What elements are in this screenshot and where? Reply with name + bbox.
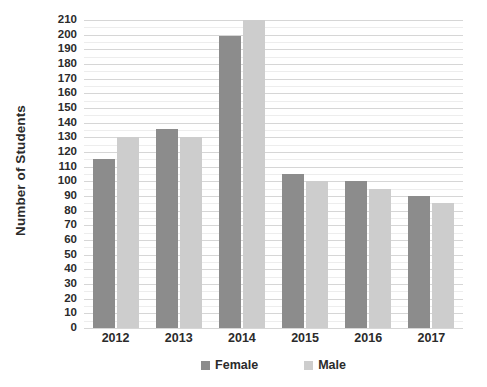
bars-layer	[84, 20, 463, 328]
gridline-major	[84, 328, 463, 329]
bar-male-2016	[369, 189, 391, 328]
y-axis-tick-labels: 0102030405060708090100110120130140150160…	[38, 0, 80, 340]
bar-male-2017	[432, 203, 454, 328]
y-axis-tick-210: 210	[37, 14, 77, 26]
y-axis-tick-130: 130	[37, 132, 77, 144]
legend-label-male: Male	[318, 358, 346, 372]
x-axis-tick-labels: 201220132014201520162017	[84, 331, 463, 353]
y-axis-tick-50: 50	[37, 249, 77, 261]
bar-male-2012	[117, 137, 139, 328]
y-axis-tick-150: 150	[37, 102, 77, 114]
y-axis-tick-70: 70	[37, 220, 77, 232]
bar-female-2012	[93, 159, 115, 328]
bar-male-2013	[180, 137, 202, 328]
bar-chart: Number of Students 010203040506070809010…	[0, 0, 487, 387]
bar-female-2014	[219, 36, 241, 328]
y-axis-tick-20: 20	[37, 293, 77, 305]
y-axis-tick-120: 120	[37, 146, 77, 158]
bar-female-2015	[282, 174, 304, 328]
legend-swatch-icon-male	[304, 361, 313, 370]
legend-entry-male[interactable]: Male	[304, 358, 346, 372]
y-axis-title: Number of Students	[0, 0, 40, 340]
bar-male-2015	[306, 181, 328, 328]
x-axis-tick-2013: 2013	[165, 331, 193, 345]
y-axis-tick-0: 0	[37, 322, 77, 334]
y-axis-tick-180: 180	[37, 58, 77, 70]
y-axis-tick-90: 90	[37, 190, 77, 202]
y-axis-tick-10: 10	[37, 308, 77, 320]
x-axis-tick-2014: 2014	[228, 331, 256, 345]
y-axis-tick-100: 100	[37, 176, 77, 188]
legend-entry-female[interactable]: Female	[201, 358, 258, 372]
bar-female-2016	[345, 181, 367, 328]
y-axis-tick-160: 160	[37, 88, 77, 100]
y-axis-tick-110: 110	[37, 161, 77, 173]
x-axis-tick-2012: 2012	[102, 331, 130, 345]
bar-female-2013	[156, 129, 178, 328]
y-axis-tick-140: 140	[37, 117, 77, 129]
x-axis-tick-2015: 2015	[291, 331, 319, 345]
y-axis-tick-30: 30	[37, 278, 77, 290]
chart-legend: FemaleMale	[84, 355, 463, 375]
y-axis-tick-170: 170	[37, 73, 77, 85]
bar-female-2017	[408, 196, 430, 328]
y-axis-tick-80: 80	[37, 205, 77, 217]
bar-male-2014	[243, 20, 265, 328]
y-axis-tick-60: 60	[37, 234, 77, 246]
y-axis-tick-200: 200	[37, 29, 77, 41]
y-axis-title-label: Number of Students	[13, 105, 28, 236]
x-axis-tick-2016: 2016	[354, 331, 382, 345]
plot-area	[84, 20, 463, 328]
y-axis-tick-40: 40	[37, 264, 77, 276]
legend-label-female: Female	[215, 358, 258, 372]
x-axis-tick-2017: 2017	[418, 331, 446, 345]
legend-swatch-icon-female	[201, 361, 210, 370]
y-axis-tick-190: 190	[37, 44, 77, 56]
